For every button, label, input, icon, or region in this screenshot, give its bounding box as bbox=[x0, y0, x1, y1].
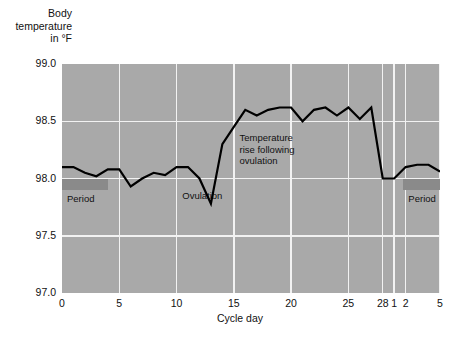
x-tick-label: 5 bbox=[425, 297, 455, 309]
x-tick-label: 0 bbox=[47, 297, 77, 309]
x-tick-label: 25 bbox=[333, 297, 363, 309]
x-tick-label: 5 bbox=[104, 297, 134, 309]
bbt-chart: Body temperature in °F 99.098.598.097.59… bbox=[0, 0, 457, 337]
x-tick-label: 20 bbox=[276, 297, 306, 309]
x-tick-label: 2 bbox=[391, 297, 421, 309]
x-tick-label-group: 051015202528125 bbox=[0, 0, 457, 337]
x-axis-title: Cycle day bbox=[180, 312, 300, 325]
x-tick-label: 15 bbox=[219, 297, 249, 309]
x-tick-label: 10 bbox=[162, 297, 192, 309]
